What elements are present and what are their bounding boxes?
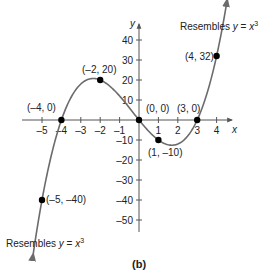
label-point-3: (3, 0) (177, 103, 200, 114)
data-point (136, 117, 142, 123)
label-point-m5: (–5, –40) (46, 194, 86, 205)
annotation-exp: 3 (254, 20, 258, 27)
x-tick-label: 4 (214, 125, 220, 136)
y-tick-label: –50 (116, 215, 133, 226)
data-point (97, 77, 103, 83)
y-tick-label: –20 (116, 155, 133, 166)
cubic-graph: x y –5–4–3–2–11234 –50–40–30–20–10102030… (0, 0, 268, 280)
label-point-m2: (–2, 20) (82, 64, 116, 75)
annotation-eq: = (64, 238, 75, 249)
label-point-0: (0, 0) (146, 103, 169, 114)
data-point (194, 117, 200, 123)
label-point-4: (4, 32) (185, 51, 214, 62)
data-point (155, 137, 161, 143)
annotation-eq: = (238, 21, 249, 32)
x-axis-label: x (231, 124, 238, 135)
x-tick-label: 2 (175, 125, 181, 136)
annotation-prefix: Resembles (6, 238, 59, 249)
figure-caption: (b) (132, 258, 146, 270)
data-point (58, 117, 64, 123)
annotation-exp: 3 (80, 237, 84, 244)
annotation-top-right: Resembles y = x3 (180, 20, 258, 32)
x-tick-label: –2 (95, 125, 107, 136)
y-tick-label: –10 (116, 135, 133, 146)
y-tick-label: –30 (116, 175, 133, 186)
y-tick-label: 20 (122, 75, 134, 86)
x-tick-label: 3 (194, 125, 200, 136)
annotation-bottom-left: Resembles y = x3 (6, 237, 84, 249)
label-point-m4: (–4, 0) (27, 102, 56, 113)
y-tick-label: 30 (122, 55, 134, 66)
x-tick-label: –5 (36, 125, 48, 136)
x-tick-label: 1 (156, 125, 162, 136)
data-point (213, 53, 219, 59)
label-point-1: (1, –10) (148, 147, 182, 158)
y-axis-label: y (129, 18, 136, 29)
annotation-prefix: Resembles (180, 21, 233, 32)
x-tick-label: –3 (75, 125, 87, 136)
data-point (39, 197, 45, 203)
y-tick-label: 40 (122, 35, 134, 46)
y-tick-label: –40 (116, 195, 133, 206)
